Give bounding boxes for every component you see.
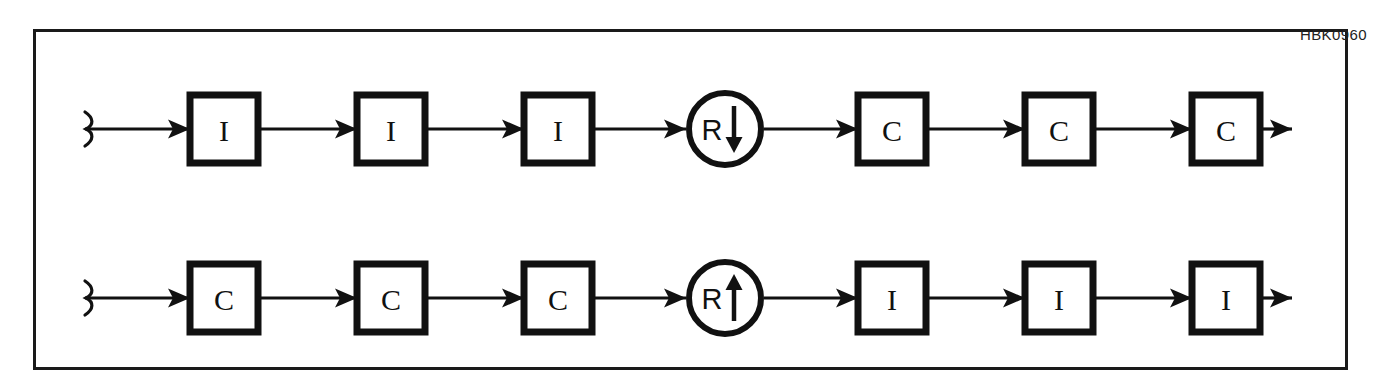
node-label: R xyxy=(702,283,723,315)
chain-diagram-top: IIIRCCC xyxy=(0,84,1383,174)
node-label: C xyxy=(214,283,234,316)
node-label: C xyxy=(548,283,568,316)
node-label: R xyxy=(702,114,723,146)
node-circle xyxy=(689,93,761,165)
node-label: C xyxy=(1216,114,1236,147)
node-label: C xyxy=(1049,114,1069,147)
node-label: I xyxy=(553,114,563,147)
node-label: I xyxy=(386,114,396,147)
chain-diagram-bottom: CCCRIII xyxy=(0,253,1383,343)
node-label: C xyxy=(882,114,902,147)
figure-id-label: HBK0960 xyxy=(1300,26,1367,43)
figure-canvas: HBK0960 IIIRCCC CCCRIII xyxy=(0,0,1383,389)
node-label: I xyxy=(1221,283,1231,316)
node-label: I xyxy=(219,114,229,147)
node-label: I xyxy=(887,283,897,316)
signal-chain-row-bottom: CCCRIII xyxy=(0,253,1383,343)
signal-chain-row-top: IIIRCCC xyxy=(0,84,1383,174)
node-circle xyxy=(689,262,761,334)
node-label: I xyxy=(1054,283,1064,316)
node-label: C xyxy=(381,283,401,316)
